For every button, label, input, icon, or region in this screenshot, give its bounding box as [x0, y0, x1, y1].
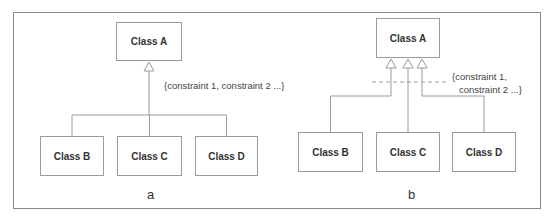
inheritance-arrowhead-icon [403, 59, 413, 68]
diagram-canvas: Class A Class B Class C Class D {constra… [0, 0, 555, 221]
inheritance-arrowhead-icon [144, 62, 154, 71]
generalization-line [422, 68, 484, 132]
generalization-connectors [0, 0, 555, 221]
generalization-line [331, 68, 392, 132]
inheritance-arrowhead-icon [417, 59, 427, 68]
inheritance-arrowhead-icon [386, 59, 396, 68]
